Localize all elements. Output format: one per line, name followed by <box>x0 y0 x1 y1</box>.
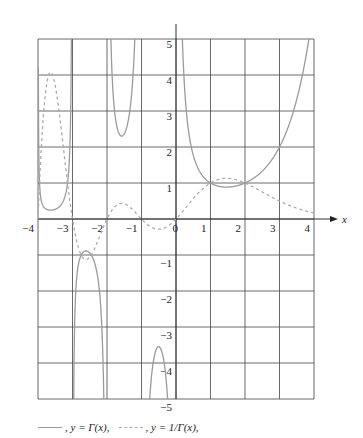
y-tick-label: −3 <box>160 329 172 341</box>
x-tick-label: 0 <box>173 222 179 234</box>
x-tick-label: 4 <box>305 222 311 234</box>
gamma-chart: x−4−3−2−101234−5−4−3−2−112345 <box>0 0 363 438</box>
x-axis-label: x <box>341 213 347 225</box>
y-tick-label: −2 <box>160 293 172 305</box>
legend-solid-swatch-icon <box>38 427 62 428</box>
y-tick-label: −1 <box>160 257 172 269</box>
y-tick-label: −5 <box>160 401 172 413</box>
y-tick-label: −4 <box>160 365 172 377</box>
legend-recip-label: , y = 1/Γ(x), <box>146 421 199 433</box>
legend: , y = Γ(x), , y = 1/Γ(x), <box>38 421 199 433</box>
x-tick-label: 3 <box>270 222 276 234</box>
y-tick-label: 5 <box>167 38 173 50</box>
y-tick-label: 1 <box>167 182 173 194</box>
x-tick-label: 1 <box>201 222 207 234</box>
x-tick-label: −4 <box>22 222 34 234</box>
y-tick-label: 3 <box>167 110 173 122</box>
y-tick-label: 2 <box>167 146 173 158</box>
x-axis-arrow-icon <box>330 216 338 222</box>
y-tick-label: 4 <box>167 74 173 86</box>
x-tick-label: 2 <box>236 222 242 234</box>
legend-gamma-label: , y = Γ(x), <box>65 421 110 433</box>
legend-dashed-swatch-icon <box>119 427 143 428</box>
x-tick-label: −3 <box>57 222 69 234</box>
x-tick-label: −1 <box>126 222 138 234</box>
